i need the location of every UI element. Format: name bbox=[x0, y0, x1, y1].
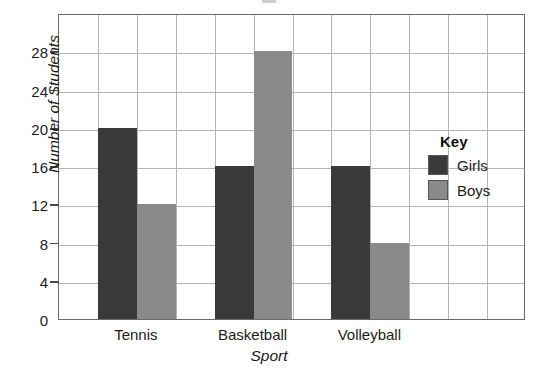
legend-label: Girls bbox=[457, 158, 488, 173]
y-tick-label: 4 bbox=[8, 274, 48, 289]
y-tick-mark bbox=[50, 243, 59, 245]
bar-volleyball-girls bbox=[331, 166, 370, 319]
y-axis-title: Number of Students bbox=[45, 14, 63, 194]
legend-title: Key bbox=[440, 134, 528, 149]
legend: Key GirlsBoys bbox=[428, 134, 528, 205]
legend-swatch-boys bbox=[428, 180, 448, 200]
y-tick-label: 16 bbox=[8, 160, 48, 175]
legend-swatch-girls bbox=[428, 155, 448, 175]
legend-entries: GirlsBoys bbox=[428, 155, 528, 200]
bar-tennis-boys bbox=[137, 204, 176, 319]
bar-basketball-boys bbox=[254, 51, 293, 319]
x-axis-title: Sport bbox=[0, 347, 538, 365]
y-tick-label: 24 bbox=[8, 83, 48, 98]
y-tick-label: 0 bbox=[8, 313, 48, 328]
y-tick-label: 8 bbox=[8, 236, 48, 251]
bar-volleyball-boys bbox=[370, 243, 409, 320]
y-tick-label: 12 bbox=[8, 198, 48, 213]
bar-chart-screenshot: 0481216202428 Number of Students TennisB… bbox=[0, 0, 538, 369]
legend-label: Boys bbox=[457, 183, 490, 198]
legend-item-boys: Boys bbox=[428, 180, 528, 200]
bar-basketball-girls bbox=[215, 166, 254, 319]
x-tick-label: Tennis bbox=[114, 326, 157, 343]
x-tick-label: Volleyball bbox=[338, 326, 401, 343]
bar-tennis-girls bbox=[98, 128, 137, 319]
y-tick-label: 28 bbox=[8, 45, 48, 60]
y-tick-mark bbox=[50, 204, 59, 206]
cropped-title-artifact bbox=[262, 0, 276, 3]
legend-item-girls: Girls bbox=[428, 155, 528, 175]
y-tick-label: 20 bbox=[8, 121, 48, 136]
x-tick-label: Basketball bbox=[218, 326, 287, 343]
y-tick-mark bbox=[50, 281, 59, 283]
